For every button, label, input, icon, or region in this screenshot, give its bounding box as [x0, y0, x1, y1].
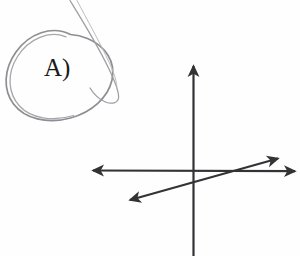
- choice-label-a: A): [44, 55, 70, 80]
- sketch-canvas: A): [0, 0, 300, 256]
- plotted-line-group: [130, 159, 278, 201]
- ellipse-annotation-tail-stroke: [70, 1, 119, 104]
- sketch-drawing: [0, 0, 300, 256]
- ellipse-annotation-tail-stroke-secondary: [77, 1, 117, 90]
- horizontal-axis: [93, 171, 295, 172]
- plotted-line-a: [130, 159, 278, 201]
- axes-group: [93, 66, 295, 256]
